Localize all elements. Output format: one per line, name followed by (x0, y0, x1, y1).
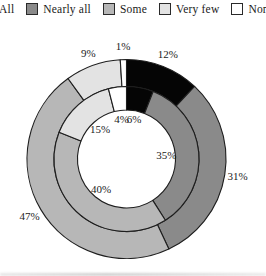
percentage-label-inner-ring: 35% (156, 149, 176, 161)
percentage-label-outer-ring: 47% (20, 210, 40, 222)
percentage-label-inner-ring: 4% (114, 113, 129, 125)
figure-nested-donut-chart: AllNearly allSomeVery fewNone 12%31%47%9… (0, 0, 266, 276)
percentage-label-outer-ring: 9% (81, 47, 96, 59)
percentage-label-outer-ring: 31% (228, 170, 248, 182)
percentage-label-inner-ring: 15% (90, 123, 110, 135)
percentage-label-inner-ring: 6% (127, 113, 142, 125)
percentage-label-inner-ring: 40% (91, 183, 111, 195)
donut-chart: 12%31%47%9%1%6%35%40%15%4% (0, 0, 266, 276)
percentage-label-outer-ring: 1% (116, 40, 131, 52)
percentage-label-outer-ring: 12% (158, 48, 178, 60)
donut-segment-outer-ring-none (120, 60, 126, 87)
